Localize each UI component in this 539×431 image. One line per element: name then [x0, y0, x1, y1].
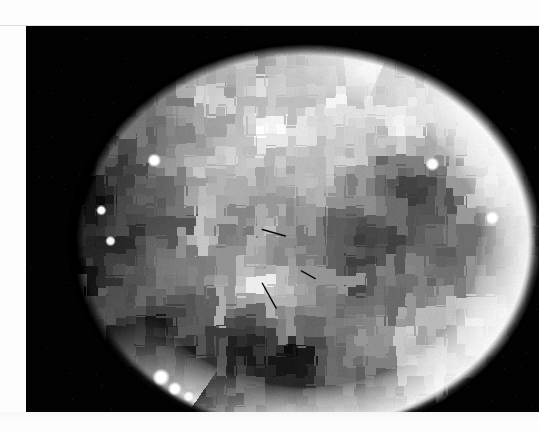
planetary-disk-canvas [26, 26, 539, 412]
planetary-disk-figure [26, 26, 539, 412]
figure-page [0, 0, 539, 431]
scan-bottom-haze-artifact [0, 412, 539, 422]
